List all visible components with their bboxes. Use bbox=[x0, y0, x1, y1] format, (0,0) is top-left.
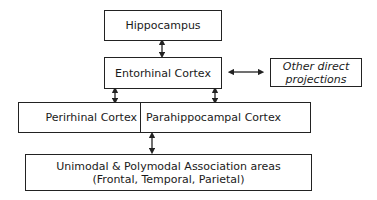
perirhinal-cortex-box: Perirhinal Cortex bbox=[18, 102, 141, 133]
hippocampus-label: Hippocampus bbox=[125, 19, 200, 32]
association-areas-line2: (Frontal, Temporal, Parietal) bbox=[93, 173, 245, 186]
association-areas-box: Unimodal & Polymodal Association areas (… bbox=[25, 154, 312, 191]
parahippocampal-cortex-label: Parahippocampal Cortex bbox=[146, 111, 281, 124]
association-areas-line1: Unimodal & Polymodal Association areas bbox=[56, 160, 281, 173]
hippocampus-box: Hippocampus bbox=[104, 10, 222, 41]
entorhinal-cortex-label: Entorhinal Cortex bbox=[115, 67, 211, 80]
other-projections-line2: projections bbox=[286, 73, 347, 86]
other-projections-line1: Other direct bbox=[283, 60, 349, 73]
perirhinal-cortex-label: Perirhinal Cortex bbox=[45, 111, 137, 124]
other-projections-box: Other direct projections bbox=[270, 58, 362, 87]
entorhinal-cortex-box: Entorhinal Cortex bbox=[104, 57, 222, 89]
parahippocampal-cortex-box: Parahippocampal Cortex bbox=[140, 102, 311, 133]
